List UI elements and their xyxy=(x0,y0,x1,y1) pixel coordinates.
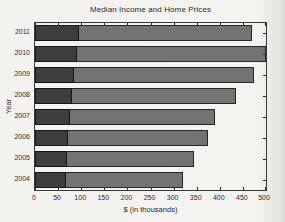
y-tick-label-2009: 2009 xyxy=(0,70,30,78)
x-tick-bottom-400 xyxy=(220,187,221,190)
x-tick-label-250: 250 xyxy=(139,194,161,202)
x-tick-top-200 xyxy=(127,23,128,26)
y-tick-right-2010 xyxy=(263,54,266,55)
x-tick-top-150 xyxy=(104,23,105,26)
plot-area xyxy=(34,22,267,191)
x-axis-label: $ (in thousands) xyxy=(34,205,267,214)
x-tick-bottom-350 xyxy=(197,187,198,190)
x-tick-top-350 xyxy=(197,23,198,26)
median-income-home-prices-chart: Median Income and Home Prices Year $ (in… xyxy=(0,0,285,222)
x-tick-bottom-300 xyxy=(174,187,175,190)
x-tick-bottom-200 xyxy=(127,187,128,190)
x-tick-label-100: 100 xyxy=(69,194,91,202)
y-tick-left-2009 xyxy=(35,75,38,76)
y-tick-label-2011: 2011 xyxy=(0,28,30,36)
x-tick-bottom-500 xyxy=(265,187,266,190)
y-tick-left-2007 xyxy=(35,117,38,118)
y-tick-right-2007 xyxy=(263,117,266,118)
y-tick-label-2004: 2004 xyxy=(0,175,30,183)
bar-median-income-2011 xyxy=(35,25,79,41)
x-tick-label-150: 150 xyxy=(92,194,114,202)
x-tick-label-450: 450 xyxy=(231,194,253,202)
y-tick-left-2011 xyxy=(35,33,38,34)
x-tick-label-300: 300 xyxy=(162,194,184,202)
bar-median-income-2009 xyxy=(35,67,74,83)
x-tick-top-0 xyxy=(35,23,36,26)
x-tick-top-450 xyxy=(243,23,244,26)
x-tick-bottom-0 xyxy=(35,187,36,190)
y-tick-left-2005 xyxy=(35,159,38,160)
y-tick-label-2010: 2010 xyxy=(0,49,30,57)
x-tick-bottom-50 xyxy=(58,187,59,190)
y-tick-label-2008: 2008 xyxy=(0,91,30,99)
bar-median-income-2006 xyxy=(35,130,68,146)
x-tick-top-400 xyxy=(220,23,221,26)
chart-title: Median Income and Home Prices xyxy=(34,5,267,14)
y-tick-right-2011 xyxy=(263,33,266,34)
bar-median-income-2007 xyxy=(35,109,70,125)
x-tick-label-0: 0 xyxy=(23,194,45,202)
bar-median-income-2005 xyxy=(35,151,67,167)
y-tick-right-2004 xyxy=(263,180,266,181)
x-tick-label-50: 50 xyxy=(46,194,68,202)
x-tick-top-500 xyxy=(265,23,266,26)
x-tick-bottom-100 xyxy=(81,187,82,190)
y-tick-left-2006 xyxy=(35,138,38,139)
y-tick-right-2005 xyxy=(263,159,266,160)
x-tick-top-100 xyxy=(81,23,82,26)
x-tick-label-400: 400 xyxy=(208,194,230,202)
x-tick-label-500: 500 xyxy=(253,194,275,202)
x-tick-top-250 xyxy=(151,23,152,26)
x-tick-label-350: 350 xyxy=(185,194,207,202)
x-tick-label-200: 200 xyxy=(115,194,137,202)
bar-median-income-2008 xyxy=(35,88,72,104)
x-tick-bottom-150 xyxy=(104,187,105,190)
x-tick-bottom-450 xyxy=(243,187,244,190)
x-tick-bottom-250 xyxy=(151,187,152,190)
bar-median-income-2010 xyxy=(35,46,77,62)
y-tick-left-2010 xyxy=(35,54,38,55)
y-tick-right-2008 xyxy=(263,96,266,97)
y-tick-left-2004 xyxy=(35,180,38,181)
x-tick-top-50 xyxy=(58,23,59,26)
y-tick-right-2006 xyxy=(263,138,266,139)
y-tick-label-2005: 2005 xyxy=(0,154,30,162)
y-tick-label-2006: 2006 xyxy=(0,133,30,141)
y-tick-label-2007: 2007 xyxy=(0,112,30,120)
bar-median-income-2004 xyxy=(35,172,66,188)
y-tick-left-2008 xyxy=(35,96,38,97)
y-tick-right-2009 xyxy=(263,75,266,76)
x-tick-top-300 xyxy=(174,23,175,26)
